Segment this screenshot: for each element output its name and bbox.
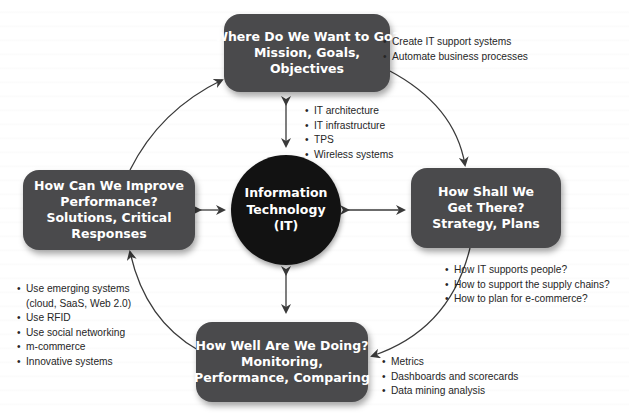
list-item: Use social networking xyxy=(17,326,131,341)
center-information-technology: Information Technology (IT) xyxy=(231,155,341,265)
node-title-line: Monitoring, xyxy=(241,354,323,370)
list-item: Innovative systems xyxy=(17,355,131,370)
node-title-line: How Well Are We Doing? xyxy=(196,338,369,354)
list-item: How IT supports people? xyxy=(445,263,610,278)
node-how-can-we-improve: How Can We Improve Performance? Solution… xyxy=(23,170,195,250)
node-title-line: Mission, Goals, xyxy=(254,45,360,61)
node-how-well-are-we-doing: How Well Are We Doing? Monitoring, Perfo… xyxy=(196,322,368,402)
bullet-list-top: Create IT support systems Automate busin… xyxy=(383,35,528,64)
node-title-line: Where Do We Want to Go? xyxy=(214,29,400,45)
list-item: Metrics xyxy=(382,355,518,370)
list-item: Data mining analysis xyxy=(382,384,518,399)
bullet-list-bottom: Metrics Dashboards and scorecards Data m… xyxy=(382,355,518,399)
node-where-do-we-want-to-go: Where Do We Want to Go? Mission, Goals, … xyxy=(224,14,390,92)
node-title-line: Responses xyxy=(71,226,146,242)
list-item: IT architecture xyxy=(305,104,393,119)
node-how-shall-we-get-there: How Shall We Get There? Strategy, Plans xyxy=(411,168,561,248)
list-item: Use emerging systems (cloud, SaaS, Web 2… xyxy=(17,282,131,311)
list-item: Dashboards and scorecards xyxy=(382,370,518,385)
bullet-list-right: How IT supports people? How to support t… xyxy=(445,263,610,307)
node-title-line: Solutions, Critical xyxy=(46,210,171,226)
node-title-line: Performance, Comparing xyxy=(194,370,370,386)
list-item: How to support the supply chains? xyxy=(445,278,610,293)
node-title-line: Get There? xyxy=(448,200,525,216)
list-item-line: Use emerging systems xyxy=(26,282,131,297)
node-title-line: Performance? xyxy=(60,194,158,210)
node-title-line: Strategy, Plans xyxy=(432,216,539,232)
list-item: How to plan for e-commerce? xyxy=(445,292,610,307)
center-title-line: Information xyxy=(245,185,328,202)
list-item: Automate business processes xyxy=(383,50,528,65)
bullet-list-center: IT architecture IT infrastructure TPS Wi… xyxy=(305,104,393,162)
node-title-line: Objectives xyxy=(270,61,344,77)
list-item: Create IT support systems xyxy=(383,35,528,50)
arc-left-to-top xyxy=(130,80,222,170)
list-item-line: (cloud, SaaS, Web 2.0) xyxy=(26,297,131,312)
list-item: IT infrastructure xyxy=(305,119,393,134)
bullet-list-left: Use emerging systems (cloud, SaaS, Web 2… xyxy=(17,282,131,370)
list-item: Wireless systems xyxy=(305,148,393,163)
list-item: m-commerce xyxy=(17,340,131,355)
center-title-line: Technology xyxy=(246,202,325,219)
arc-bottom-to-left xyxy=(130,252,198,350)
list-item: TPS xyxy=(305,133,393,148)
node-title-line: How Can We Improve xyxy=(34,178,184,194)
arc-top-to-right xyxy=(388,70,465,165)
node-title-line: How Shall We xyxy=(438,184,534,200)
center-title-line: (IT) xyxy=(274,218,299,235)
list-item: Use RFID xyxy=(17,311,131,326)
